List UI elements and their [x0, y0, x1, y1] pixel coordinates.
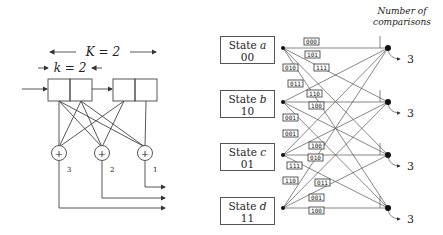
branch-label: 001 [283, 114, 298, 121]
branch-label: 001 [309, 194, 324, 201]
comparisons-c: 3 [407, 160, 414, 173]
svg-text:111: 111 [316, 64, 327, 71]
comparisons-d: 3 [407, 213, 414, 226]
branch-label: 110 [283, 177, 298, 184]
branch-label: 111 [287, 162, 302, 169]
state-a-box: State a 00 [220, 36, 275, 64]
svg-text:101: 101 [307, 51, 318, 58]
branch-label: 111 [314, 64, 329, 71]
svg-text:110: 110 [309, 90, 320, 97]
branch-label: 010 [308, 154, 323, 161]
comparisons-a: 3 [407, 53, 414, 66]
state-b-box: State b 10 [220, 90, 275, 118]
k-label: k = 2 [54, 61, 87, 75]
svg-text:100: 100 [311, 102, 322, 109]
register-cell-1 [48, 79, 70, 101]
adder-2-index: 2 [110, 166, 114, 174]
adder-3-index: 3 [67, 166, 71, 174]
node-c-right [385, 152, 391, 158]
svg-text:001: 001 [285, 114, 296, 121]
comparisons-b: 3 [407, 107, 414, 120]
svg-text:110: 110 [285, 177, 296, 184]
branch-label: 101 [305, 51, 320, 58]
branch-label: 001 [283, 130, 298, 137]
adder-3-symbol: + [55, 148, 63, 159]
trellis-diagram [283, 36, 400, 219]
node-b-right [385, 99, 391, 105]
node-a-right [385, 45, 391, 51]
svg-text:011: 011 [290, 80, 301, 87]
branch-label: 110 [307, 90, 322, 97]
branch-label: 011 [315, 179, 330, 186]
adder-2-symbol: + [98, 148, 106, 159]
register-cell-2 [70, 79, 92, 101]
adder-1-index: 1 [153, 166, 157, 174]
state-c-box: State c 01 [220, 143, 275, 171]
svg-text:001: 001 [285, 130, 296, 137]
node-d-left [281, 206, 285, 210]
state-d-box: State d 11 [220, 197, 275, 225]
svg-text:111: 111 [289, 162, 300, 169]
branch-label: 100 [309, 142, 324, 149]
branch-label: 100 [309, 207, 324, 214]
node-c-left [281, 153, 285, 157]
branch-label: 000 [304, 38, 319, 45]
comparisons-header: Number of comparisons [362, 6, 442, 28]
node-d-right [385, 205, 391, 211]
node-b-left [281, 100, 285, 104]
svg-text:000: 000 [306, 38, 317, 45]
svg-text:010: 010 [310, 154, 321, 161]
encoder-diagram [22, 52, 165, 208]
svg-text:100: 100 [311, 142, 322, 149]
output-1-arrow [145, 161, 165, 187]
node-a-left [281, 46, 285, 50]
branch-label: 100 [309, 102, 324, 109]
svg-text:010: 010 [285, 64, 296, 71]
svg-text:100: 100 [311, 207, 322, 214]
K-label: K = 2 [85, 45, 120, 59]
svg-text:001: 001 [311, 194, 322, 201]
register-cell-3 [113, 79, 135, 101]
svg-text:011: 011 [317, 179, 328, 186]
register-cell-4 [135, 79, 157, 101]
adder-1-symbol: + [141, 148, 149, 159]
branch-label: 011 [288, 80, 303, 87]
branch-label: 010 [283, 64, 298, 71]
